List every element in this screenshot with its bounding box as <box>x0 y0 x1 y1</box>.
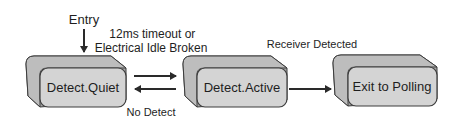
transition-label-timeout: 12ms timeout or Electrical Idle Broken <box>95 27 208 55</box>
state-diagram: Entry 12ms timeout or Electrical Idle Br… <box>0 0 466 129</box>
state-exit-to-polling: Exit to Polling <box>333 55 437 106</box>
state-label: Exit to Polling <box>353 79 432 94</box>
state-label: Detect.Active <box>204 80 281 95</box>
transition-label-no-detect: No Detect <box>127 106 176 118</box>
state-detect-quiet: Detect.Quiet <box>26 56 126 107</box>
transition-label-receiver-detected: Receiver Detected <box>267 38 358 50</box>
transition-label-line-2: Electrical Idle Broken <box>95 41 208 55</box>
state-detect-active: Detect.Active <box>183 56 287 107</box>
entry-label: Entry <box>69 12 100 27</box>
transition-label-line-1: 12ms timeout or <box>109 27 195 41</box>
state-label: Detect.Quiet <box>47 80 120 95</box>
